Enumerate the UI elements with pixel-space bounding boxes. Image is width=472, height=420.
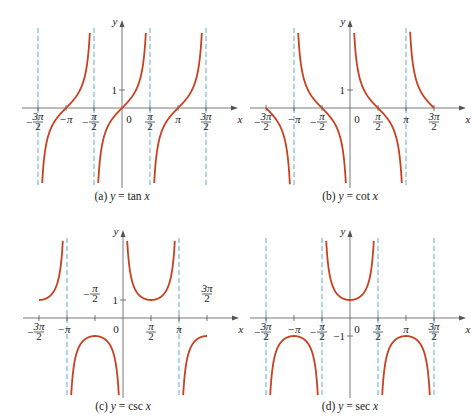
tick-label-zero: 0 xyxy=(354,323,360,335)
x-axis-label: x xyxy=(237,113,243,125)
tick-denominator: 2 xyxy=(92,292,98,304)
x-axis-label: x xyxy=(465,113,471,125)
panel-caption: (d) y = sec x xyxy=(322,400,379,413)
panel-caption: (b) y = cot x xyxy=(322,190,379,203)
tick-label-zero: 0 xyxy=(126,113,132,125)
tick-denominator: 2 xyxy=(263,120,269,132)
tick-denominator: 2 xyxy=(263,330,269,342)
tick-label-3pi-2: 3π2 xyxy=(427,110,440,132)
panel-csc: yx13π2−−ππ2−0π2π3π2(c) y = csc x xyxy=(23,225,244,413)
y-axis-label: y xyxy=(112,15,118,27)
panel-tan: yx13π2−−ππ2−0π2π3π2(a) y = tan x xyxy=(22,15,243,203)
panel-cot: yx13π2−−ππ2−0π2π3π2(b) y = cot x xyxy=(250,15,471,203)
y-axis-label: y xyxy=(340,225,346,237)
tick-label-neg-pi: −π xyxy=(288,323,301,335)
curve-csc xyxy=(127,241,175,300)
x-axis-arrow-icon xyxy=(459,106,466,111)
y-axis-arrow-icon xyxy=(348,20,353,27)
y-axis-arrow-icon xyxy=(121,230,126,237)
tick-label-pi-2: π2 xyxy=(373,320,383,342)
y-tick-label-one: 1 xyxy=(340,84,346,96)
y-tick-label-neg-one: −1 xyxy=(333,330,345,342)
tick-label-pi: π xyxy=(176,323,182,335)
tick-denominator: 2 xyxy=(375,330,381,342)
y-axis-label: y xyxy=(113,225,119,237)
tick-label-pi-2: π2 xyxy=(373,110,383,132)
tick-minus: − xyxy=(27,326,33,338)
curve-sec xyxy=(382,336,430,395)
tick-label-neg-3pi-2: 3π2− xyxy=(26,110,44,132)
tick-minus: − xyxy=(82,116,88,128)
tick-denominator: 2 xyxy=(319,330,325,342)
curve-csc xyxy=(71,336,119,395)
tick-label-neg-pi: −π xyxy=(288,113,301,125)
x-axis-arrow-icon xyxy=(232,316,239,321)
panel-sec: yx−13π2−−ππ2−0π2π3π2(d) y = sec x xyxy=(250,225,471,413)
y-tick-label-one: 1 xyxy=(112,84,118,96)
panel-caption: (c) y = csc x xyxy=(95,400,152,413)
tick-label-pi: π xyxy=(403,113,409,125)
tick-label-neg-3pi-2: 3π2− xyxy=(254,110,272,132)
panel-caption: (a) y = tan x xyxy=(94,190,150,203)
x-axis-arrow-icon xyxy=(459,316,466,321)
tick-label-3pi-2: 3π2 xyxy=(427,320,440,342)
tick-denominator: 2 xyxy=(431,120,437,132)
y-axis-label: y xyxy=(340,15,346,27)
x-axis-label: x xyxy=(465,323,471,335)
tick-denominator: 2 xyxy=(36,330,42,342)
tick-minus: − xyxy=(310,116,316,128)
curve-cot xyxy=(410,32,434,108)
y-axis-arrow-icon xyxy=(348,230,353,237)
tick-label-neg-pi-2: π2− xyxy=(310,320,327,342)
tick-label-zero: 0 xyxy=(113,323,119,335)
tick-denominator: 2 xyxy=(147,120,153,132)
tick-label-pi-2: π2 xyxy=(145,110,155,132)
tick-denominator: 2 xyxy=(319,120,325,132)
tick-minus: − xyxy=(83,288,89,300)
tick-label-neg-pi: −π xyxy=(60,113,73,125)
tick-denominator: 2 xyxy=(204,292,210,304)
tick-denominator: 2 xyxy=(431,330,437,342)
tick-denominator: 2 xyxy=(35,120,41,132)
trig-functions-figure: yx13π2−−ππ2−0π2π3π2(a) y = tan xyx13π2−−… xyxy=(0,0,472,420)
tick-denominator: 2 xyxy=(91,120,97,132)
tick-label-neg-pi-2: π2− xyxy=(83,282,100,304)
tick-label-pi: π xyxy=(403,323,409,335)
curve-csc xyxy=(183,336,207,395)
tick-label-pi: π xyxy=(175,113,181,125)
curve-sec xyxy=(270,336,318,395)
y-axis-arrow-icon xyxy=(120,20,125,27)
tick-minus: − xyxy=(26,116,32,128)
y-tick-label-one: 1 xyxy=(113,294,119,306)
tick-label-neg-3pi-2: 3π2− xyxy=(27,320,45,342)
x-axis-arrow-icon xyxy=(231,106,238,111)
tick-minus: − xyxy=(254,326,260,338)
tick-minus: − xyxy=(310,326,316,338)
tick-minus: − xyxy=(254,116,260,128)
tick-label-zero: 0 xyxy=(354,113,360,125)
tick-label-neg-pi-2: π2− xyxy=(310,110,327,132)
tick-label-neg-3pi-2: 3π2− xyxy=(254,320,272,342)
tick-denominator: 2 xyxy=(375,120,381,132)
tick-label-neg-pi-2: π2− xyxy=(82,110,99,132)
tick-label-pi-2: π2 xyxy=(146,320,156,342)
tick-denominator: 2 xyxy=(148,330,154,342)
curve-csc xyxy=(39,241,63,300)
tick-label-neg-pi: −π xyxy=(58,323,71,335)
tick-label-3pi-2: 3π2 xyxy=(199,110,212,132)
tick-label-3pi-2: 3π2 xyxy=(200,282,213,304)
tick-denominator: 2 xyxy=(203,120,209,132)
x-axis-label: x xyxy=(238,323,244,335)
